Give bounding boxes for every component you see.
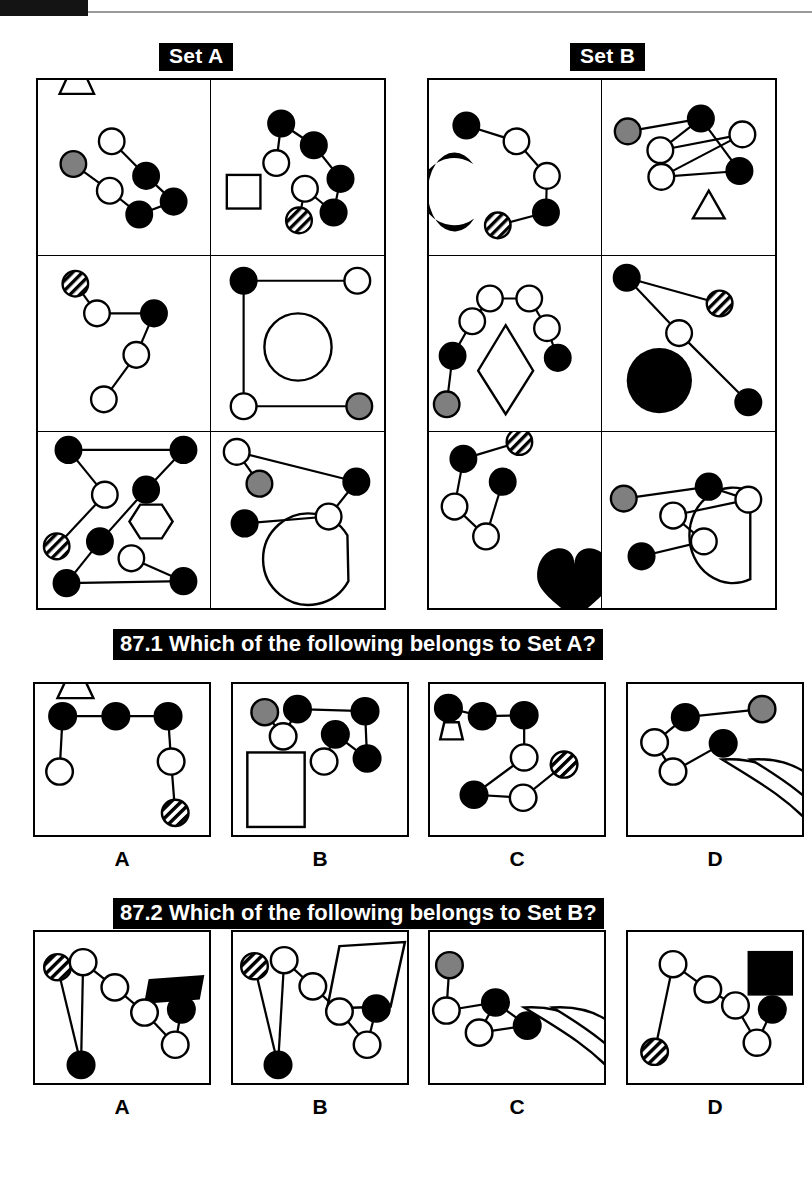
graph-node-white [270, 723, 297, 749]
set-b-label: Set B [570, 43, 645, 71]
header-rule [88, 11, 812, 13]
graph-node-grey [436, 952, 463, 978]
option-figure-box[interactable] [231, 682, 409, 837]
graph-node-white [119, 545, 145, 571]
option-figure-box[interactable] [33, 682, 211, 837]
graph-node-black [688, 106, 714, 132]
graph-node-white [477, 286, 503, 312]
graph-node-black [126, 202, 152, 228]
graph-node-striped [162, 800, 189, 826]
graph-node-black [161, 189, 187, 215]
graph-node-black [352, 698, 379, 724]
option-b-q1[interactable]: B [231, 682, 409, 871]
graph-node-black [68, 1052, 95, 1078]
question-87-1-options: ABCD [0, 682, 812, 882]
option-letter: C [428, 1095, 606, 1119]
graph-node-black [103, 703, 130, 729]
graph-node-white [70, 949, 97, 975]
option-figure-box[interactable] [626, 930, 804, 1085]
set-a-grid [36, 78, 386, 610]
graph-node-grey [749, 696, 776, 722]
option-figure-box[interactable] [428, 682, 606, 837]
set-b-cell-1 [429, 80, 602, 256]
graph-node-white [292, 176, 318, 202]
set-b-grid [427, 78, 777, 610]
graph-node-white [224, 439, 250, 465]
figure-canvas [38, 432, 210, 608]
graph-node-white [511, 744, 538, 770]
graph-node-white [99, 128, 125, 154]
graph-node-white [271, 947, 298, 973]
graph-node-white [647, 137, 673, 163]
figure-canvas [211, 256, 384, 431]
graph-node-white [158, 748, 185, 774]
figure-canvas [602, 256, 775, 431]
graph-node-grey [61, 151, 87, 177]
figure-canvas [233, 932, 407, 1083]
option-d-q2[interactable]: D [626, 930, 804, 1119]
graph-node-striped [44, 954, 71, 980]
graph-node-white [504, 128, 530, 154]
graph-node-white [660, 951, 687, 977]
option-c-q2[interactable]: C [428, 930, 606, 1119]
graph-node-white [691, 528, 717, 554]
graph-edge [278, 960, 284, 1065]
option-figure-box[interactable] [33, 930, 211, 1085]
option-a-q1[interactable]: A [33, 682, 211, 871]
figure-canvas [38, 256, 210, 431]
set-a-label: Set A [159, 43, 233, 71]
graph-edge [254, 966, 278, 1065]
graph-node-white [263, 150, 289, 176]
graph-edge [627, 278, 720, 304]
set-a-cell-2 [211, 80, 384, 256]
set-b-cell-6 [602, 432, 775, 608]
graph-node-white [730, 122, 756, 148]
graph-node-black [451, 446, 477, 472]
graph-node-white [534, 315, 560, 341]
graph-node-white [102, 974, 129, 1000]
graph-node-striped [707, 291, 733, 317]
graph-node-black [155, 703, 182, 729]
figure-canvas [233, 684, 407, 835]
graph-node-black [727, 158, 753, 184]
figure-canvas [602, 432, 775, 608]
graph-node-striped [507, 432, 533, 455]
option-figure-box[interactable] [428, 930, 606, 1085]
graph-node-white [46, 758, 73, 784]
graph-node-white [91, 387, 117, 413]
graph-node-black [759, 996, 786, 1022]
set-a-cell-5 [38, 432, 211, 608]
option-d-q1[interactable]: D [626, 682, 804, 871]
option-letter: D [626, 1095, 804, 1119]
set-a-cell-4 [211, 256, 384, 432]
graph-node-striped [485, 212, 511, 238]
graph-node-black [87, 528, 113, 554]
option-figure-box[interactable] [231, 930, 409, 1085]
option-c-q1[interactable]: C [428, 682, 606, 871]
graph-node-black [322, 721, 349, 747]
graph-node-white [666, 320, 692, 346]
graph-node-black [56, 437, 82, 463]
graph-node-striped [44, 533, 70, 559]
graph-node-black [265, 1052, 292, 1078]
graph-node-white [97, 178, 123, 204]
graph-node-white [516, 286, 542, 312]
graph-edge [67, 581, 184, 583]
graph-node-grey [434, 391, 460, 417]
graph-node-white [442, 494, 468, 520]
graph-node-black [710, 730, 737, 756]
graph-node-black [49, 703, 76, 729]
option-figure-box[interactable] [626, 682, 804, 837]
graph-node-white [354, 1032, 381, 1058]
graph-node-white [131, 999, 158, 1025]
graph-node-white [124, 342, 150, 368]
figure-canvas [602, 80, 775, 255]
option-a-q2[interactable]: A [33, 930, 211, 1119]
figure-canvas [429, 432, 601, 608]
graph-node-black [284, 696, 311, 722]
option-b-q2[interactable]: B [231, 930, 409, 1119]
figure-canvas [35, 684, 209, 835]
graph-node-white [722, 992, 749, 1018]
graph-node-black [511, 702, 538, 728]
graph-node-white [648, 164, 674, 190]
